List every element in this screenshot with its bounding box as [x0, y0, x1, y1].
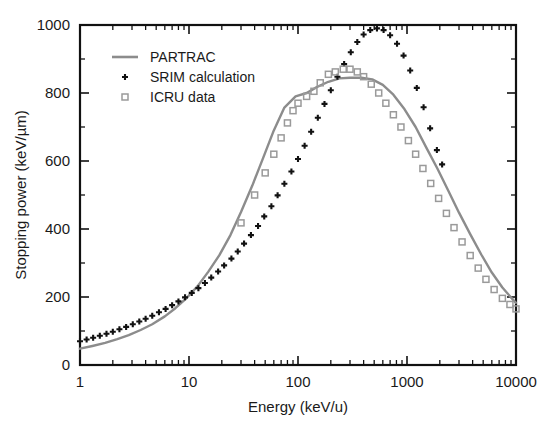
y-tick-label: 200: [45, 288, 70, 305]
y-tick-label: 600: [45, 152, 70, 169]
y-axis-title: Stopping power (keV/µm): [12, 110, 29, 280]
x-tick-label: 10000: [495, 373, 537, 390]
legend-label: PARTRAC: [150, 49, 216, 65]
x-tick-label: 10: [181, 373, 198, 390]
x-axis-title: Energy (keV/u): [248, 398, 348, 415]
x-tick-label: 1: [76, 373, 84, 390]
chart-canvas: 110100100010000 02004006008001000 Energy…: [0, 0, 550, 432]
stopping-power-chart-figure: 110100100010000 02004006008001000 Energy…: [0, 0, 550, 432]
y-tick-label: 800: [45, 84, 70, 101]
x-tick-label: 1000: [390, 373, 423, 390]
legend-label: SRIM calculation: [150, 69, 255, 85]
x-tick-label: 100: [285, 373, 310, 390]
figure-background: [0, 0, 550, 432]
legend-label: ICRU data: [150, 89, 216, 105]
y-tick-label: 400: [45, 220, 70, 237]
y-tick-label: 0: [62, 356, 70, 373]
y-tick-label: 1000: [37, 16, 70, 33]
